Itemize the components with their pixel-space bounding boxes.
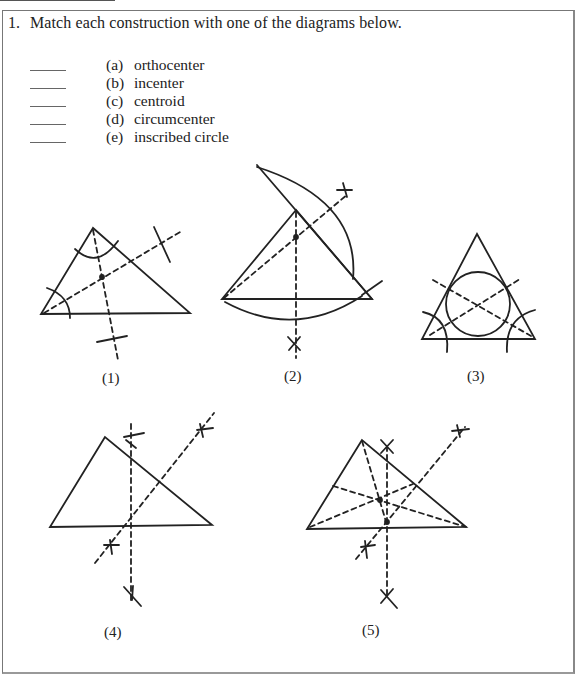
diagram-caption-5: (5) xyxy=(362,622,380,639)
diagram-caption-1: (1) xyxy=(102,370,120,387)
diagram-1 xyxy=(41,227,190,360)
diagram-caption-3: (3) xyxy=(467,368,485,385)
diagram-caption-4: (4) xyxy=(104,624,122,641)
diagram-4 xyxy=(50,413,214,606)
diagram-caption-2: (2) xyxy=(284,368,302,385)
diagram-5 xyxy=(307,425,469,608)
diagram-3 xyxy=(422,234,535,352)
diagrams xyxy=(0,0,579,676)
diagram-2 xyxy=(222,165,382,358)
